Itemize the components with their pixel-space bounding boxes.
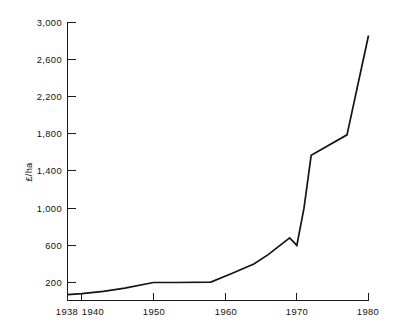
y-tick-label-1000: 1,000	[37, 203, 62, 214]
y-tick-label-2200: 2,200	[37, 91, 62, 102]
x-tick-label-1950: 1950	[143, 306, 165, 317]
chart-canvas: 3,000 2,600 2,200 1,800 1,400 1,000 600 …	[0, 0, 400, 333]
y-tick-label-1800: 1,800	[37, 128, 62, 139]
y-tick-label-600: 600	[45, 240, 62, 251]
x-tick-label-1938: 1938	[56, 306, 78, 317]
data-series-line	[68, 36, 369, 295]
x-tick-label-1970: 1970	[286, 306, 308, 317]
x-axis-tick-labels: 1938 1940 1950 1960 1970 1980	[56, 306, 379, 317]
y-axis-ticks	[68, 23, 76, 283]
x-tick-label-1940: 1940	[82, 306, 104, 317]
line-chart-figure: 3,000 2,600 2,200 1,800 1,400 1,000 600 …	[0, 0, 400, 333]
x-axis-ticks	[82, 293, 369, 301]
x-tick-label-1980: 1980	[357, 306, 379, 317]
y-tick-label-200: 200	[45, 277, 62, 288]
y-tick-label-3000: 3,000	[37, 17, 62, 28]
x-tick-label-1960: 1960	[215, 306, 237, 317]
axis-lines	[68, 22, 369, 301]
y-tick-label-2600: 2,600	[37, 54, 62, 65]
y-axis-tick-labels: 3,000 2,600 2,200 1,800 1,400 1,000 600 …	[37, 17, 62, 288]
y-tick-label-1400: 1,400	[37, 165, 62, 176]
y-axis-title: £/ha	[24, 162, 34, 182]
